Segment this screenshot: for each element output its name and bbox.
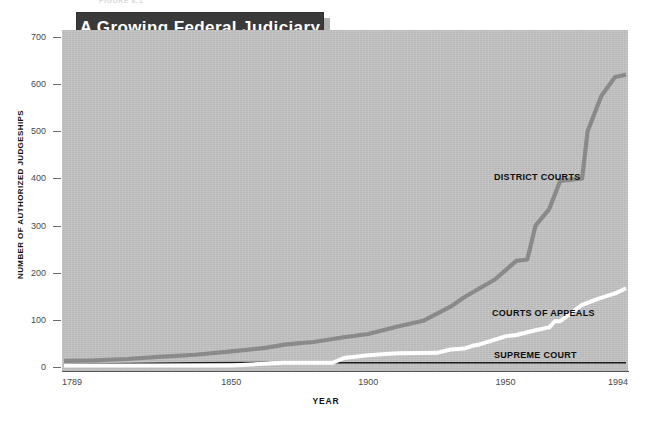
series-label-courts-of-appeals: COURTS OF APPEALS <box>492 308 595 318</box>
y-tick-label: 0 <box>18 363 46 372</box>
y-tick-mark <box>53 84 61 85</box>
figure-caption: FIGURE 8.1 <box>99 0 143 4</box>
plot-area <box>62 30 628 372</box>
y-tick-mark <box>53 367 61 368</box>
x-tick-label: 1950 <box>495 378 515 387</box>
chart-lines <box>62 30 628 372</box>
x-tick-label: 1850 <box>221 378 241 387</box>
y-axis-title: NUMBER OF AUTHORIZED JUDGESHIPS <box>16 85 25 305</box>
figure-root: FIGURE 8.1 A Growing Federal Judiciary 0… <box>0 0 652 423</box>
series-label-district-courts: DISTRICT COURTS <box>494 172 581 182</box>
x-tick-label: 1994 <box>608 378 628 387</box>
y-tick-mark <box>53 131 61 132</box>
y-tick-mark <box>53 37 61 38</box>
y-tick-mark <box>53 273 61 274</box>
y-tick-label: 100 <box>18 316 46 325</box>
y-tick-mark <box>53 320 61 321</box>
y-tick-mark <box>53 178 61 179</box>
x-axis-title: YEAR <box>0 396 652 406</box>
y-tick-mark <box>53 226 61 227</box>
x-tick-label: 1900 <box>358 378 378 387</box>
x-axis-line <box>62 371 629 372</box>
series-label-supreme-court: SUPREME COURT <box>494 350 577 360</box>
x-tick-label: 1789 <box>62 378 82 387</box>
y-tick-label: 700 <box>18 33 46 42</box>
